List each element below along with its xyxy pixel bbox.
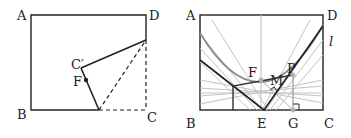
square-outline-solid [31, 15, 146, 110]
left-figure: A D B C C′ F [16, 8, 159, 125]
point-f [84, 78, 88, 82]
label-c: C [324, 116, 334, 131]
label-g: G [288, 116, 298, 131]
folded-side-edge [81, 68, 99, 110]
label-c: C [147, 110, 157, 125]
folded-top-edge [81, 40, 146, 68]
label-l: l [329, 34, 333, 49]
label-e: E [257, 116, 267, 131]
label-b: B [186, 116, 196, 131]
label-f: F [248, 65, 257, 80]
point-g [291, 108, 296, 113]
label-p: P [287, 61, 296, 76]
label-b: B [17, 107, 27, 122]
right-figure: A D l B E G C F P M [185, 8, 337, 131]
diagram-canvas: A D B C C′ F [0, 0, 351, 138]
label-a: A [185, 8, 196, 23]
label-d: D [149, 8, 159, 23]
point-f [259, 78, 264, 83]
label-c-prime: C′ [71, 57, 84, 72]
label-m: M [270, 73, 283, 88]
label-f: F [73, 74, 82, 89]
label-a: A [16, 8, 27, 23]
label-d: D [327, 8, 337, 23]
